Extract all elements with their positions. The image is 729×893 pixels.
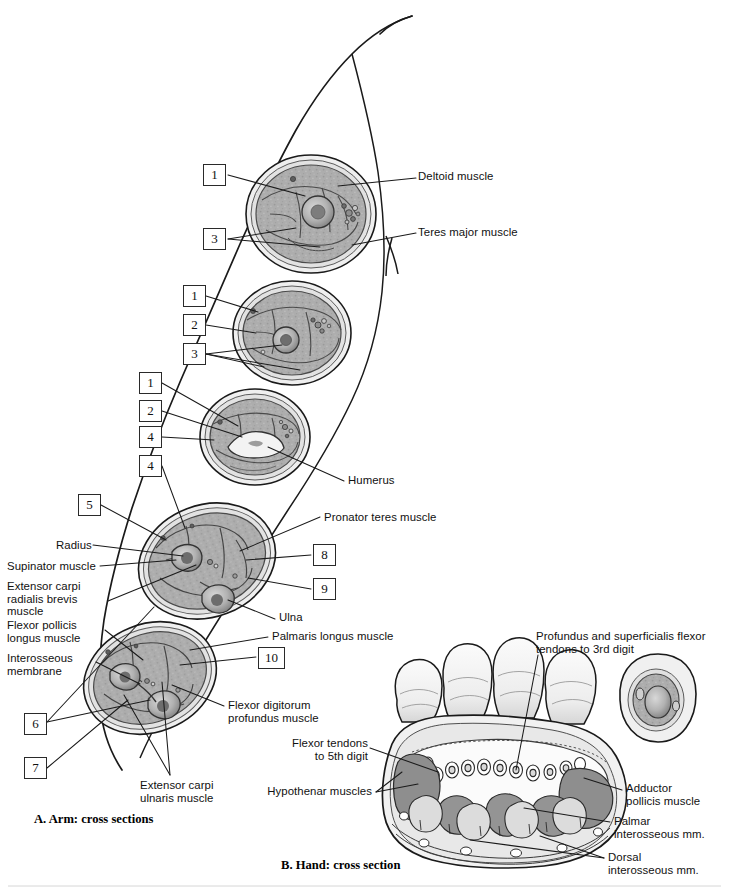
label-humerus: Humerus (348, 474, 395, 487)
cross-section-distal-arm (200, 389, 310, 485)
number-box-14[interactable]: 6 (24, 713, 47, 735)
label-pronator-teres-muscle: Pronator teres muscle (324, 511, 436, 524)
label-teres-major-muscle: Teres major muscle (418, 226, 518, 239)
number-box-5[interactable]: 3 (183, 343, 206, 365)
label-interosseous-membrane: Interosseous membrane (7, 652, 73, 677)
cross-section-mid-arm (233, 281, 351, 385)
label-deltoid-muscle: Deltoid muscle (418, 170, 493, 183)
label-hypothenar-muscles: Hypothenar muscles (200, 785, 372, 798)
caption-panel-a: A. Arm: cross sections (34, 812, 153, 827)
label-ulna: Ulna (279, 611, 303, 624)
number-box-11[interactable]: 8 (313, 544, 336, 566)
number-box-12[interactable]: 9 (313, 578, 336, 600)
label-palmar-interosseous-mm: Palmar interosseous mm. (614, 815, 705, 840)
number-box-9[interactable]: 4 (139, 455, 162, 477)
label-flexor-pollicis-longus-muscle: Flexor pollicis longus muscle (7, 619, 80, 644)
label-radius: Radius (56, 539, 92, 552)
figure-canvas: 1 3 1 2 3 1 2 4 4 5 8 9 10 6 7 Deltoid m… (0, 0, 729, 893)
number-box-8[interactable]: 4 (139, 426, 162, 448)
label-palmaris-longus-muscle: Palmaris longus muscle (272, 630, 393, 643)
number-box-1[interactable]: 1 (203, 164, 226, 186)
number-box-15[interactable]: 7 (24, 757, 47, 779)
label-dorsal-interosseous-mm: Dorsal interosseous mm. (608, 851, 699, 876)
label-extensor-carpi-radialis-brevis-muscle: Extensor carpi radialis brevis muscle (7, 580, 81, 618)
label-supinator-muscle: Supinator muscle (7, 560, 96, 573)
number-box-7[interactable]: 2 (139, 400, 162, 422)
cross-section-deltoid-level (246, 155, 376, 273)
thumb-cross-section (620, 654, 696, 742)
radius-bone (172, 545, 202, 572)
number-box-4[interactable]: 2 (183, 314, 206, 336)
ulna-bone (202, 585, 234, 613)
number-box-2[interactable]: 3 (203, 228, 226, 250)
label-adductor-pollicis-muscle: Adductor pollicis muscle (626, 782, 700, 807)
number-box-10[interactable]: 5 (78, 494, 101, 516)
caption-panel-b: B. Hand: cross section (281, 858, 400, 873)
number-box-13[interactable]: 10 (258, 647, 285, 669)
label-flexor-digitorum-profundus-muscle: Flexor digitorum profundus muscle (228, 699, 319, 724)
label-flexor-tendons-5th-digit: Flexor tendons to 5th digit (200, 737, 368, 762)
number-box-6[interactable]: 1 (139, 372, 162, 394)
number-box-3[interactable]: 1 (183, 285, 206, 307)
label-profundus-superficialis-flexor-tendons-3rd-digit: Profundus and superficialis flexor tendo… (536, 630, 705, 655)
